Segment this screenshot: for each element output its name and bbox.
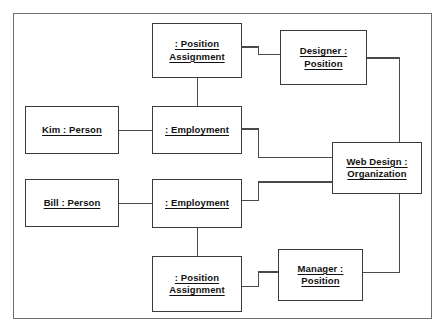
object-label-manager-position: Manager : Position xyxy=(298,263,344,288)
link-kim-to-employment-upper-seg1 xyxy=(119,130,153,132)
link-employment-upper-to-web-design-seg2 xyxy=(258,128,260,158)
link-position-assignment-bottom-to-manager-seg3 xyxy=(258,271,279,273)
link-employment-upper-to-web-design-seg3 xyxy=(258,157,333,159)
object-node-kim-person[interactable]: Kim : Person xyxy=(25,106,119,154)
object-node-employment-lower[interactable]: : Employment xyxy=(152,179,242,228)
object-label-web-design-organization: Web Design : Organization xyxy=(346,156,407,181)
object-label-line: Kim : Person xyxy=(42,124,102,137)
object-node-manager-position[interactable]: Manager : Position xyxy=(278,249,363,301)
object-node-designer-position[interactable]: Designer : Position xyxy=(280,30,367,85)
object-label-line: : Employment xyxy=(165,197,229,210)
link-position-assignment-top-to-designer-seg3 xyxy=(258,54,281,56)
link-position-assignment-top-to-designer-seg1 xyxy=(242,46,259,48)
link-position-assignment-bottom-to-manager-seg1 xyxy=(242,286,259,288)
link-employment-upper-to-web-design-seg1 xyxy=(242,128,259,130)
object-label-line: Position xyxy=(298,275,344,288)
object-label-line: Web Design : xyxy=(346,156,407,169)
link-position-assignment-bottom-to-manager-seg2 xyxy=(258,271,260,287)
object-label-position-assignment-top: : Position Assignment xyxy=(169,38,224,63)
link-bill-to-employment-lower-seg1 xyxy=(119,203,153,205)
link-position-assignment-top-to-employment-upper-seg1 xyxy=(197,78,199,106)
object-label-line: Bill : Person xyxy=(44,197,101,210)
object-label-line: : Employment xyxy=(165,124,229,137)
object-label-bill-person: Bill : Person xyxy=(44,197,101,210)
link-employment-lower-to-web-design-seg3 xyxy=(258,181,333,183)
object-label-line: Assignment xyxy=(169,51,224,64)
link-employment-lower-to-position-assignment-bottom-seg1 xyxy=(197,228,199,256)
object-label-employment-lower: : Employment xyxy=(165,197,229,210)
object-label-line: : Position xyxy=(169,38,224,51)
object-label-position-assignment-bottom: : Position Assignment xyxy=(169,272,224,297)
object-label-designer-position: Designer : Position xyxy=(300,45,347,70)
object-node-web-design-organization[interactable]: Web Design : Organization xyxy=(332,142,422,194)
object-label-line: Position xyxy=(300,58,347,71)
object-node-position-assignment-bottom[interactable]: : Position Assignment xyxy=(152,256,242,312)
link-employment-lower-to-web-design-seg2 xyxy=(258,181,260,201)
object-label-line: Designer : xyxy=(300,45,347,58)
object-node-employment-upper[interactable]: : Employment xyxy=(152,106,242,154)
link-designer-to-manager-seg1 xyxy=(367,57,400,59)
object-label-kim-person: Kim : Person xyxy=(42,124,102,137)
object-diagram-canvas: : Position Assignment Designer : Positio… xyxy=(0,0,445,334)
link-designer-to-manager-seg3 xyxy=(362,272,399,274)
object-label-line: Organization xyxy=(346,168,407,181)
object-label-employment-upper: : Employment xyxy=(165,124,229,137)
link-employment-lower-to-web-design-seg1 xyxy=(242,200,259,202)
object-label-line: Manager : xyxy=(298,263,344,276)
object-node-position-assignment-top[interactable]: : Position Assignment xyxy=(152,23,242,78)
object-node-bill-person[interactable]: Bill : Person xyxy=(25,179,119,227)
object-label-line: Assignment xyxy=(169,284,224,297)
object-label-line: : Position xyxy=(169,272,224,285)
